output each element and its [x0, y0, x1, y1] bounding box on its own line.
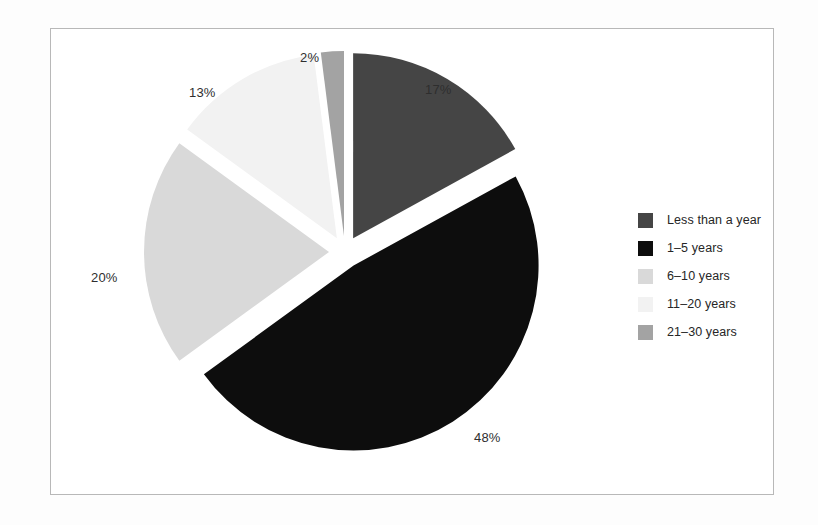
legend-item[interactable]: 21–30 years [638, 318, 778, 346]
legend-item-label: 6–10 years [667, 269, 730, 283]
legend-item[interactable]: 1–5 years [638, 234, 778, 262]
legend-color-swatch [638, 213, 653, 228]
pie-slice-group [144, 51, 539, 450]
pie-data-label: 17% [425, 82, 452, 97]
chart-page: 17%48%20%13%2% Less than a year1–5 years… [0, 0, 818, 525]
legend-color-swatch [638, 325, 653, 340]
chart-legend: Less than a year1–5 years6–10 years11–20… [638, 206, 778, 346]
pie-data-label: 20% [91, 270, 118, 285]
legend-item-label: 21–30 years [667, 325, 737, 339]
legend-color-swatch [638, 241, 653, 256]
legend-item-label: 11–20 years [667, 297, 736, 311]
legend-item[interactable]: Less than a year [638, 206, 778, 234]
legend-item-label: Less than a year [667, 213, 761, 227]
pie-data-label: 13% [189, 85, 216, 100]
legend-item-label: 1–5 years [667, 241, 723, 255]
legend-item[interactable]: 11–20 years [638, 290, 778, 318]
pie-data-label: 48% [474, 430, 501, 445]
pie-chart [55, 30, 615, 490]
legend-color-swatch [638, 269, 653, 284]
pie-data-label: 2% [300, 50, 319, 65]
legend-item[interactable]: 6–10 years [638, 262, 778, 290]
legend-color-swatch [638, 297, 653, 312]
